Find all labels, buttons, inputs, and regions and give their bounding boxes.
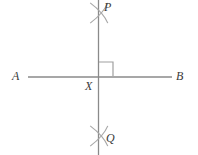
point-label-b: B [176,70,183,82]
point-label-a: A [12,70,19,82]
point-label-p: P [104,1,111,13]
point-label-q: Q [106,132,115,144]
geometry-figure: A B P Q X [0,0,198,155]
point-label-x: X [85,80,92,92]
geometry-canvas [0,0,198,155]
right-angle-mark-icon [99,62,113,76]
